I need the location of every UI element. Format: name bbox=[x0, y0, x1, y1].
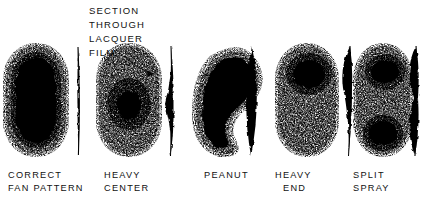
label-split-spray-line-1: SPLIT bbox=[353, 170, 385, 180]
pattern-group-split-spray: SPLIT SPRAY bbox=[353, 43, 419, 193]
callout-line-1: SECTION bbox=[89, 5, 139, 16]
label-heavy-end-line-2: END bbox=[283, 183, 306, 193]
label-correct-fan-pattern-line-2: FAN PATTERN bbox=[8, 183, 84, 193]
cross-section-4 bbox=[342, 46, 352, 156]
pattern-group-heavy-center: HEAVY CENTER bbox=[96, 43, 174, 193]
cross-section-2 bbox=[165, 46, 174, 156]
label-correct-fan-pattern-line-1: CORRECT bbox=[8, 170, 62, 180]
callout-line-2: THROUGH bbox=[89, 19, 145, 30]
pattern-group-correct-fan-pattern: CORRECT FAN PATTERN bbox=[3, 43, 84, 193]
spray-face-heavy-center bbox=[96, 43, 162, 157]
spray-face-split-spray bbox=[353, 43, 413, 157]
callout-line-3: LACQUER bbox=[89, 33, 143, 44]
label-heavy-center-line-2: CENTER bbox=[104, 183, 149, 193]
label-heavy-end-line-1: HEAVY bbox=[275, 170, 312, 180]
label-peanut-line-1: PEANUT bbox=[204, 170, 249, 180]
spray-face-correct-fan-pattern bbox=[3, 43, 69, 157]
label-split-spray-line-2: SPRAY bbox=[353, 183, 390, 193]
cross-section-1 bbox=[77, 47, 79, 155]
pattern-group-peanut: PEANUT bbox=[192, 46, 263, 180]
label-heavy-center-line-1: HEAVY bbox=[104, 170, 141, 180]
spray-pattern-figure: SECTION THROUGH LACQUER FILM bbox=[0, 0, 421, 208]
spray-face-heavy-end bbox=[275, 43, 339, 157]
pattern-group-heavy-end: HEAVY END bbox=[275, 43, 352, 193]
